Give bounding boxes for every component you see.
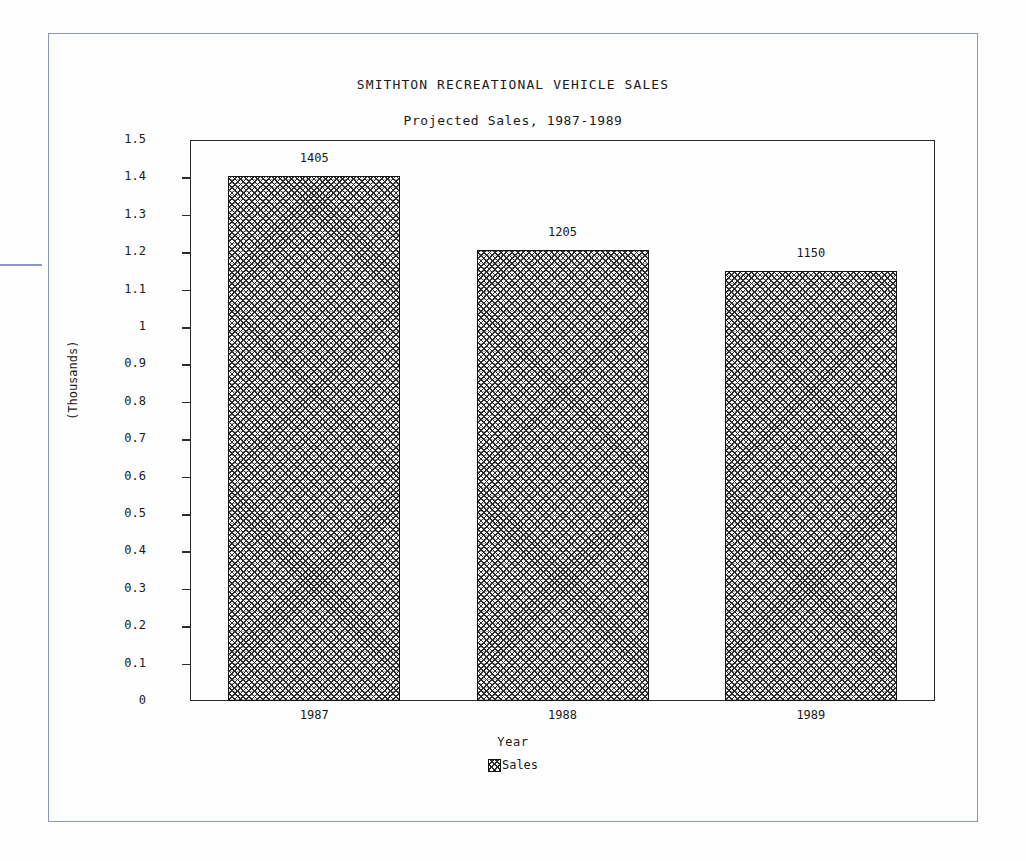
bar-value-label: 1405	[254, 151, 374, 165]
x-axis-tick-label: 1988	[503, 708, 623, 722]
y-axis-tick-label: 0	[139, 693, 146, 707]
y-axis-tick-mark	[182, 177, 190, 179]
x-axis-tick-label: 1987	[254, 708, 374, 722]
y-axis-tick-label: 0.2	[124, 618, 146, 632]
bar	[477, 250, 649, 701]
y-axis-tick-mark	[182, 514, 190, 516]
y-axis-tick-label: 0.8	[124, 394, 146, 408]
y-axis-tick-label: 1.5	[124, 132, 146, 146]
y-axis-tick-label: 1	[139, 319, 146, 333]
y-axis-tick-label: 1.3	[124, 207, 146, 221]
y-axis-tick-label: 1.2	[124, 244, 146, 258]
y-axis-tick-mark	[182, 439, 190, 441]
y-axis-title: (Thousands)	[66, 341, 80, 420]
page-edge-mark	[0, 264, 42, 266]
y-axis-tick-label: 0.5	[124, 506, 146, 520]
y-axis-tick-label: 1.4	[124, 169, 146, 183]
y-axis-tick-mark	[182, 402, 190, 404]
y-axis-tick-label: 0.9	[124, 356, 146, 370]
y-axis-tick-mark	[182, 551, 190, 553]
legend-item-label: Sales	[502, 758, 538, 772]
bar	[228, 176, 400, 701]
y-axis-tick-mark	[182, 664, 190, 666]
y-axis-tick-label: 0.1	[124, 656, 146, 670]
x-axis-tick-label: 1989	[751, 708, 871, 722]
y-axis-tick-mark	[182, 215, 190, 217]
bar-value-label: 1150	[751, 246, 871, 260]
legend-item-sales: Sales	[488, 758, 538, 772]
y-axis-tick-mark	[182, 327, 190, 329]
chart-subtitle: Projected Sales, 1987-1989	[0, 113, 1026, 128]
y-axis-tick-label: 1.1	[124, 282, 146, 296]
y-axis-tick-mark	[182, 477, 190, 479]
y-axis-tick-mark	[182, 252, 190, 254]
y-axis-tick-label: 0.3	[124, 581, 146, 595]
x-axis-title: Year	[0, 735, 1026, 749]
chart-legend: Sales	[0, 758, 1026, 772]
y-axis-tick-mark	[182, 290, 190, 292]
bar-value-label: 1205	[503, 225, 623, 239]
y-axis-tick-mark	[182, 626, 190, 628]
y-axis-tick-label: 0.6	[124, 469, 146, 483]
bar	[725, 271, 897, 701]
chart-title: SMITHTON RECREATIONAL VEHICLE SALES	[0, 77, 1026, 92]
legend-swatch-icon	[488, 759, 501, 772]
y-axis-tick-mark	[182, 364, 190, 366]
y-axis-tick-label: 0.4	[124, 543, 146, 557]
page-background: SMITHTON RECREATIONAL VEHICLE SALES Proj…	[0, 0, 1026, 861]
y-axis-tick-mark	[182, 589, 190, 591]
y-axis-tick-label: 0.7	[124, 431, 146, 445]
